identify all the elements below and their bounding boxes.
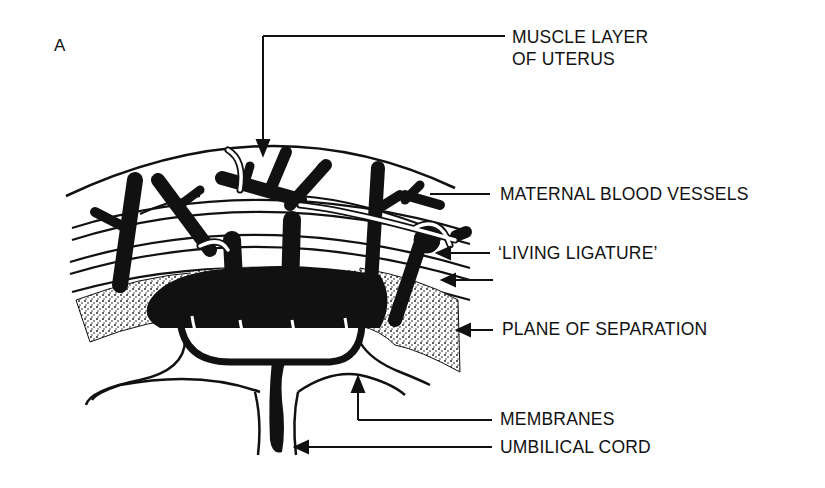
label-muscle-layer: MUSCLE LAYER OF UTERUS <box>512 26 648 70</box>
label-living-ligature: ‘LIVING LIGATURE’ <box>498 242 658 264</box>
label-membranes: MEMBRANES <box>500 408 615 430</box>
label-umbilical-cord: UMBILICAL CORD <box>500 436 651 458</box>
placenta-diagram <box>0 0 825 488</box>
umbilical-cord-shape <box>269 360 286 453</box>
label-maternal-blood-vessels: MATERNAL BLOOD VESSELS <box>500 183 749 205</box>
label-plane-of-separation: PLANE OF SEPARATION <box>502 318 707 340</box>
label-muscle-layer-line2: OF UTERUS <box>512 48 648 70</box>
label-muscle-layer-line1: MUSCLE LAYER <box>512 26 648 48</box>
membranes <box>86 340 430 455</box>
